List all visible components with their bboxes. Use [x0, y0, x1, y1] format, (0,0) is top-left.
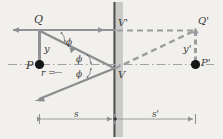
dimension-origin-dot: [113, 117, 117, 121]
label-P: P: [25, 59, 34, 72]
label-r: r: [41, 68, 46, 78]
label-s: s: [74, 109, 79, 119]
label-Q: Q: [34, 13, 43, 26]
label-angle-upper: ϕ: [66, 37, 72, 47]
label-y: y: [43, 43, 50, 54]
label-equals: =: [48, 68, 56, 78]
diagram-canvas: Q P y V' V Q' P' y' r = ϕ ϕ ϕ s s': [0, 0, 223, 139]
optics-ray-diagram: Q P y V' V Q' P' y' r = ϕ ϕ ϕ s s': [0, 0, 223, 139]
label-yprime: y': [182, 43, 191, 54]
label-sprime: s': [152, 109, 159, 119]
label-Vprime: V': [118, 17, 128, 28]
label-Pprime: P': [200, 57, 210, 68]
label-Qprime: Q': [198, 15, 209, 26]
label-angle-lower: ϕ: [76, 69, 82, 79]
label-angle-mid: ϕ: [76, 54, 82, 64]
point-Pprime: [191, 60, 200, 69]
